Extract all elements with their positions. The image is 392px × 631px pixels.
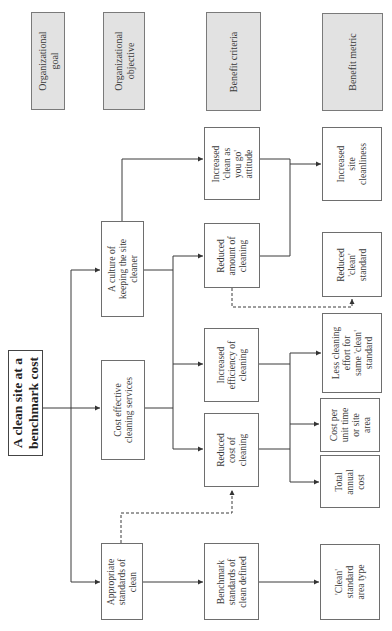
criteria-label: Increased 'clean as you go' attitude [210,145,254,182]
metric-label: Less cleaning effort for same 'clean' st… [330,327,374,379]
objective-cost-effective: Cost effective cleaning services [101,360,145,460]
header-organizational-objective: Organizational objective [103,12,145,110]
metric-clean-standard-area-type: 'Clean' standard area type [320,544,380,620]
header-label: Organizational objective [113,31,136,90]
metric-label: Total annual cost [333,469,366,495]
metric-label: 'Clean' standard area type [333,565,366,600]
objective-culture: A culture of keeping the site cleaner [101,221,144,317]
metric-label: Cost per unit time or site area [328,408,372,442]
objective-appropriate-standards: Appropriate standards of clean [101,543,143,620]
criteria-label: Reduced amount of cleaning [215,236,248,275]
objective-label: A culture of keeping the site cleaner [106,239,139,299]
criteria-clean-as-you-go: Increased 'clean as you go' attitude [204,127,260,200]
criteria-label: Increased efficiency of cleaning [215,341,248,390]
goal-box: A clean site at a benchmark cost [8,350,43,456]
header-label: Benefit criteria [228,31,240,91]
header-label: Benefit metric [347,33,359,90]
metric-label: Increased site cleanliness [335,143,368,185]
header-benefit-metric: Benefit metric [322,13,383,111]
header-label: Organizational goal [37,31,60,90]
criteria-reduced-cost: Reduced cost of cleaning [204,413,259,487]
objective-label: Cost effective cleaning services [112,377,134,443]
goal-label: A clean site at a benchmark cost [10,357,41,449]
metric-less-cleaning-effort: Less cleaning effort for same 'clean' st… [322,313,382,393]
criteria-label: Reduced cost of cleaning [215,433,248,467]
criteria-benchmark-standards: Benchmark standards of clean defined [204,543,259,620]
criteria-increased-efficiency: Increased efficiency of cleaning [204,328,259,402]
metric-total-annual-cost: Total annual cost [320,455,380,508]
objective-label: Appropriate standards of clean [105,558,138,605]
metric-cost-per-unit: Cost per unit time or site area [320,398,380,452]
criteria-label: Benchmark standards of clean defined [215,556,248,607]
metric-label: Reduced 'clean' standard [335,248,368,282]
header-organizational-goal: Organizational goal [31,12,65,110]
header-benefit-criteria: Benefit criteria [206,12,261,111]
criteria-reduced-amount: Reduced amount of cleaning [204,223,260,288]
metric-reduced-clean-standard: Reduced 'clean' standard [322,232,382,297]
metric-site-cleanliness: Increased site cleanliness [322,127,382,201]
